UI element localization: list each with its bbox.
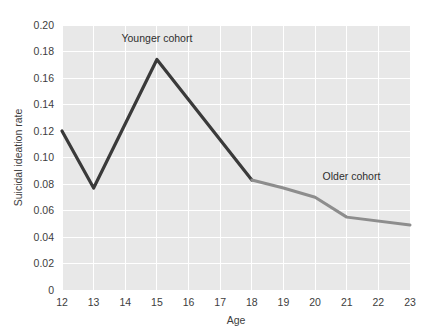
x-axis-title: Age <box>227 314 246 326</box>
y-axis-tick-label: 0.08 <box>34 178 55 190</box>
chart-figure: 00.020.040.060.080.100.120.140.160.180.2… <box>0 0 424 330</box>
x-axis-tick-label: 21 <box>341 296 353 308</box>
y-axis-tick-label: 0.14 <box>34 98 55 110</box>
x-axis-tick-label: 18 <box>246 296 258 308</box>
y-axis-tick-label: 0.20 <box>34 19 55 31</box>
y-axis-tick-label: 0.02 <box>34 257 55 269</box>
annotation-younger-cohort: Younger cohort <box>121 32 192 44</box>
x-axis-tick-label: 17 <box>214 296 226 308</box>
line-chart: 00.020.040.060.080.100.120.140.160.180.2… <box>0 0 424 330</box>
x-axis-tick-label: 14 <box>119 296 131 308</box>
y-axis-tick-label: 0.06 <box>34 204 55 216</box>
x-axis-tick-label: 22 <box>373 296 385 308</box>
x-axis-tick-label: 13 <box>88 296 100 308</box>
y-axis-tick-label: 0.04 <box>34 231 55 243</box>
x-axis-tick-label: 20 <box>309 296 321 308</box>
y-axis-tick-label: 0.10 <box>34 151 55 163</box>
x-axis-tick-label: 16 <box>183 296 195 308</box>
y-axis-title: Suicidal ideation rate <box>12 109 24 207</box>
x-axis-tick-label: 12 <box>56 296 68 308</box>
y-axis-tick-label: 0.12 <box>34 125 55 137</box>
y-axis-tick-label: 0.16 <box>34 72 55 84</box>
x-axis-tick-label: 23 <box>404 296 416 308</box>
x-axis-tick-label: 15 <box>151 296 163 308</box>
y-axis-tick-label: 0.18 <box>34 45 55 57</box>
y-axis-tick-label: 0 <box>48 284 54 296</box>
x-axis-tick-label: 19 <box>278 296 290 308</box>
annotation-older-cohort: Older cohort <box>323 170 381 182</box>
